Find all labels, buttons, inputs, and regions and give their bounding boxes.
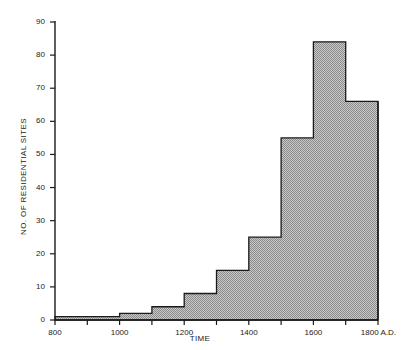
- y-tick-label: 30: [19, 216, 45, 225]
- histogram-chart: NO. OF RESIDENTIAL SITES TIME 0102030405…: [0, 0, 410, 350]
- plot-area: [0, 0, 410, 350]
- y-tick-label: 80: [19, 50, 45, 59]
- x-tick-label: 1800 A.D.: [326, 328, 396, 337]
- x-tick-label: 1400: [226, 328, 272, 337]
- bars-group: [55, 42, 378, 320]
- x-tick-label: 1000: [97, 328, 143, 337]
- y-tick-label: 40: [19, 183, 45, 192]
- y-tick-label: 60: [19, 116, 45, 125]
- y-tick-label: 20: [19, 249, 45, 258]
- x-tick-label: 800: [32, 328, 78, 337]
- histogram-bars: [55, 42, 378, 320]
- y-tick-label: 10: [19, 282, 45, 291]
- x-tick-label: 1200: [161, 328, 207, 337]
- y-tick-label: 70: [19, 83, 45, 92]
- y-tick-label: 90: [19, 17, 45, 26]
- y-tick-label: 50: [19, 149, 45, 158]
- y-tick-label: 0: [19, 315, 45, 324]
